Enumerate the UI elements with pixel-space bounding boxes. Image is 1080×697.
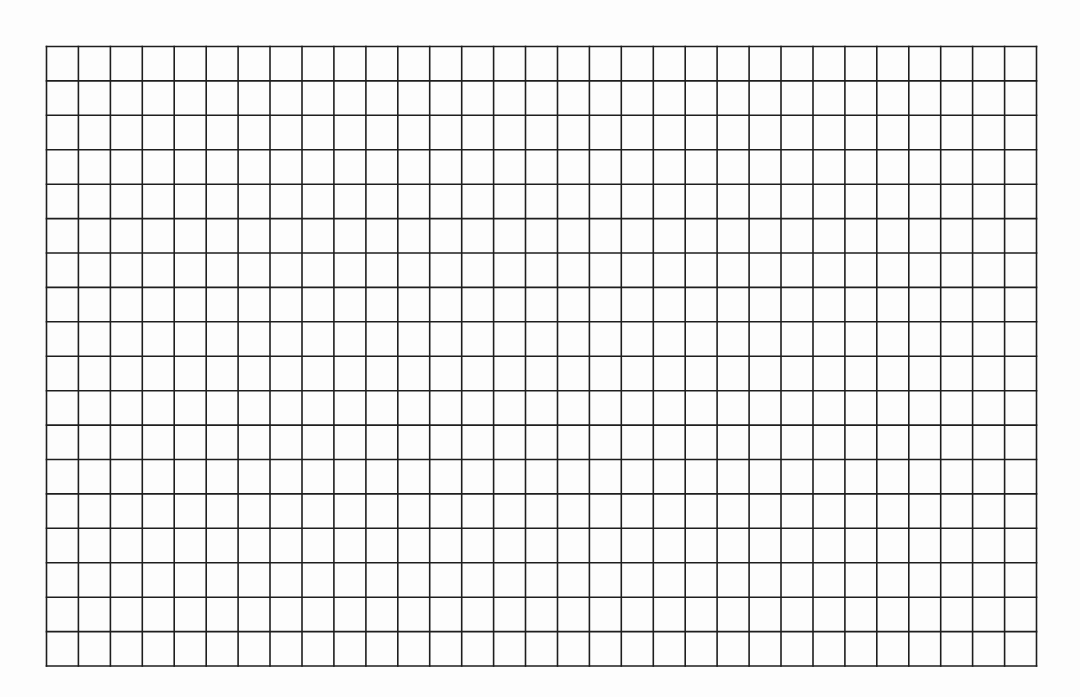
- grid-lines: [47, 47, 1037, 667]
- paper-sheet: [0, 0, 1080, 697]
- grid-table: [0, 0, 1080, 697]
